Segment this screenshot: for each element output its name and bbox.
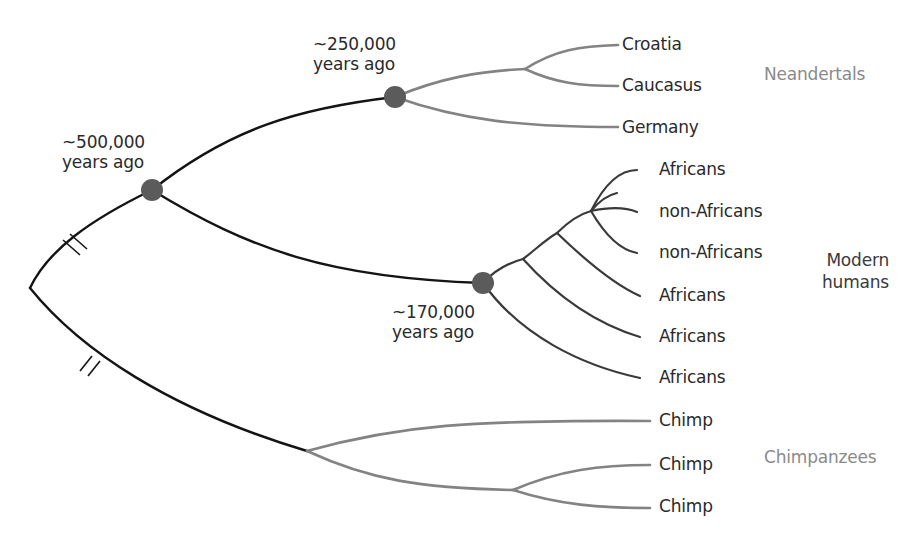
time-label-250k: ~250,000 years ago — [313, 34, 396, 74]
leaf-chimp-1: Chimp — [659, 411, 713, 430]
branch-to-africans-3 — [523, 259, 640, 337]
leaf-croatia: Croatia — [622, 35, 682, 54]
leaf-chimp-2: Chimp — [659, 455, 713, 474]
leaf-chimp-3: Chimp — [659, 497, 713, 516]
branch-to-caucasus — [525, 69, 618, 86]
leaf-caucasus: Caucasus — [622, 76, 702, 95]
group-label-modern-humans-line2: humans — [805, 271, 889, 293]
branch-to-africans-4 — [483, 283, 640, 378]
group-label-modern-humans-line1: Modern — [805, 249, 889, 271]
phylogenetic-tree-diagram: ~500,000 years ago ~250,000 years ago ~1… — [0, 0, 920, 545]
time-label-170k: ~170,000 years ago — [392, 302, 475, 342]
branch-to-chimp-1 — [307, 421, 650, 451]
break-mark-lower — [80, 356, 100, 376]
time-label-500k-value: ~500,000 — [62, 132, 145, 152]
break-mark-upper — [63, 234, 87, 255]
branch-to-chimp-3 — [513, 490, 650, 508]
branch-root-to-500k — [30, 190, 152, 288]
branch-chimp-split-to-subsplit — [307, 451, 513, 490]
time-label-170k-value: ~170,000 — [392, 302, 475, 322]
node-250k-dot — [384, 86, 406, 108]
branch-to-germany — [395, 97, 618, 127]
branch-to-non-africans-1 — [591, 208, 637, 212]
branch-root-to-chimp-split — [30, 288, 307, 451]
leaf-africans-2: Africans — [659, 286, 726, 305]
leaf-germany: Germany — [622, 118, 699, 137]
time-label-500k-unit: years ago — [62, 152, 145, 172]
node-170k-dot — [472, 272, 494, 294]
group-label-chimpanzees: Chimpanzees — [764, 446, 876, 468]
node-500k-dot — [141, 179, 163, 201]
time-label-250k-unit: years ago — [313, 54, 396, 74]
branch-to-chimp-2 — [513, 465, 650, 490]
branch-to-croatia — [525, 45, 618, 69]
time-label-250k-value: ~250,000 — [313, 34, 396, 54]
group-label-neandertals: Neandertals — [764, 63, 865, 85]
leaf-africans-1: Africans — [659, 160, 726, 179]
time-label-170k-unit: years ago — [392, 322, 475, 342]
time-label-500k: ~500,000 years ago — [62, 132, 145, 172]
leaf-non-africans-1: non-Africans — [659, 202, 762, 221]
branch-to-non-africans-2 — [591, 211, 637, 253]
leaf-africans-4: Africans — [659, 368, 726, 387]
branch-500k-to-170k — [152, 190, 483, 283]
branch-to-africans-2 — [557, 233, 640, 296]
group-label-modern-humans: Modern humans — [805, 249, 889, 293]
branch-500k-to-250k — [152, 97, 395, 190]
branch-250k-to-neandertal-split — [395, 69, 525, 97]
leaf-non-africans-2: non-Africans — [659, 243, 762, 262]
leaf-africans-3: Africans — [659, 327, 726, 346]
